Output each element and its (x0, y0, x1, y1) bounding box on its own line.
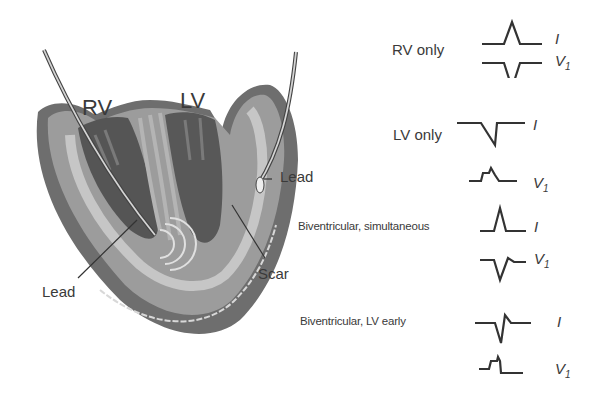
lead-v1-label: V1 (534, 250, 550, 270)
ecg-trace-biv-lv-early-lead-i-and-v1 (475, 305, 565, 385)
lv-label: LV (180, 88, 205, 114)
panel-title-rv-only: RV only (392, 41, 444, 58)
panel-title-biv-simultaneous: Biventricular, simultaneous (298, 220, 429, 232)
lead-v1-label: V1 (555, 360, 571, 380)
ecg-trace-biv-simultaneous-lead-i-and-v1 (480, 200, 560, 290)
panel-title-biv-lv-early: Biventricular, LV early (300, 315, 406, 327)
panel-title-lv-only: LV only (393, 126, 442, 143)
lead-v1-label: V1 (533, 174, 549, 194)
lead-i-label: I (533, 116, 537, 133)
rv-label: RV (82, 95, 112, 121)
ecg-trace-rv-lead-i-and-v1 (480, 18, 550, 78)
lead-i-label: I (555, 30, 559, 47)
lead-i-label: I (534, 218, 538, 235)
lead-v1-label: V1 (555, 52, 571, 72)
lead-left-label: Lead (42, 283, 75, 300)
scar-label: Scar (258, 265, 289, 282)
heart-cross-section-illustration (0, 0, 330, 397)
lead-i-label: I (557, 313, 561, 330)
lead-right-label: Lead (280, 168, 313, 185)
